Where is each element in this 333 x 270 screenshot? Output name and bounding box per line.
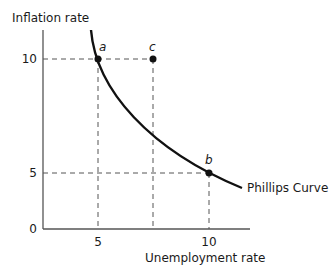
- point-b: [206, 170, 213, 177]
- y-tick-10: 10: [22, 52, 37, 66]
- x-axis-title: Unemployment rate: [145, 251, 265, 265]
- y-tick-5: 5: [29, 166, 37, 180]
- x-tick-5: 5: [94, 235, 102, 249]
- point-c: [150, 56, 157, 63]
- y-tick-0: 0: [29, 222, 37, 236]
- guide-lines: [43, 59, 209, 229]
- y-axis-title: Inflation rate: [12, 11, 89, 25]
- phillips-curve-chart: a c b 10 5 0 5 10 Inflation rate Unemplo…: [0, 0, 333, 270]
- phillips-curve: [91, 30, 242, 188]
- point-a-label: a: [99, 40, 106, 54]
- point-b-label: b: [205, 153, 213, 167]
- x-tick-10: 10: [201, 235, 216, 249]
- curve-label: Phillips Curve: [247, 181, 328, 195]
- point-a: [95, 56, 102, 63]
- point-c-label: c: [149, 40, 156, 54]
